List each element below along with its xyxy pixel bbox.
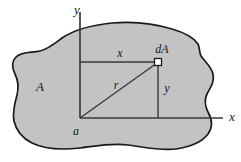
plane-area-label: A [35, 79, 44, 94]
figure-container: y x a A dA x y r [0, 0, 241, 162]
differential-area-label: dA [155, 42, 169, 56]
area-diagram-svg: y x a A dA x y r [0, 0, 241, 162]
x-dimension-label: x [116, 46, 123, 60]
y-dimension-label: y [163, 81, 170, 95]
y-axis-label: y [72, 2, 80, 17]
differential-area-marker [155, 59, 162, 66]
r-dimension-label: r [114, 78, 119, 92]
x-axis-label: x [228, 109, 235, 124]
origin-label: a [73, 124, 79, 138]
